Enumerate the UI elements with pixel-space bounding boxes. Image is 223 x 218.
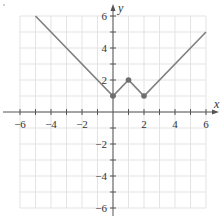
artifact-dot — [3, 4, 5, 6]
vertex-point — [110, 93, 116, 99]
vertex-point — [141, 93, 147, 99]
y-axis-arrow-icon — [111, 4, 116, 11]
x-axis-label: x — [213, 97, 220, 111]
y-tick-label: 4 — [102, 42, 108, 54]
y-axis-label: y — [117, 1, 124, 15]
y-tick-label: −6 — [95, 202, 107, 214]
x-tick-label: 6 — [203, 118, 209, 130]
x-tick-label: −2 — [76, 118, 88, 130]
x-tick-label: 4 — [172, 118, 178, 130]
y-tick-label: −4 — [95, 170, 107, 182]
y-tick-label: −2 — [95, 138, 107, 150]
series-line — [36, 16, 207, 96]
x-tick-label: 2 — [141, 118, 147, 130]
vertex-point — [126, 77, 132, 83]
y-tick-label: 6 — [102, 10, 108, 22]
function-line — [36, 16, 207, 96]
x-tick-label: −4 — [45, 118, 57, 130]
x-tick-label: −6 — [14, 118, 26, 130]
function-graph: −6−4−2246642−2−4−6 x y — [0, 0, 223, 218]
